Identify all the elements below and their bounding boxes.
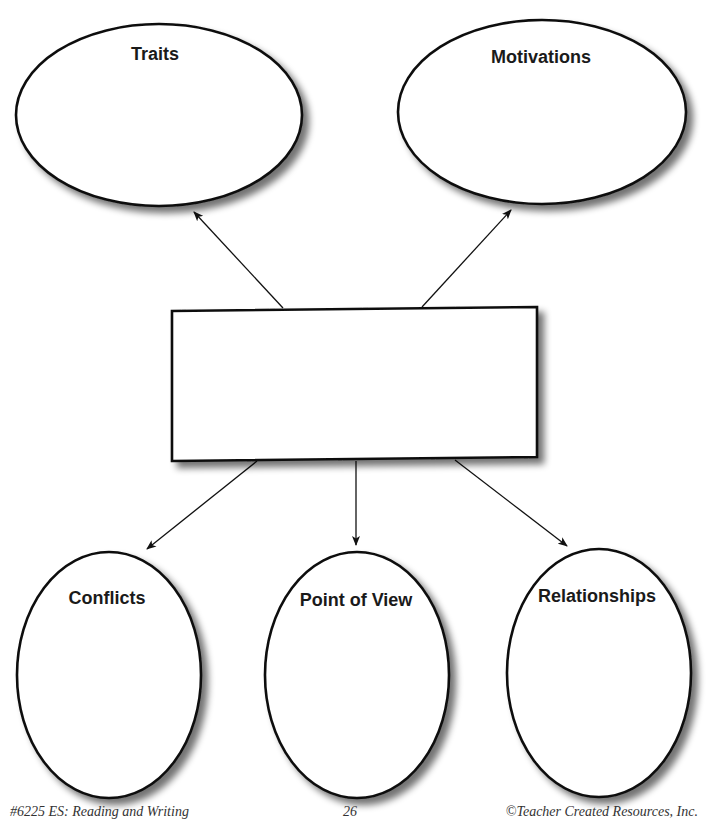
relationships-label: Relationships bbox=[538, 587, 656, 605]
footer-page-number: 26 bbox=[343, 805, 357, 819]
point-of-view-ellipse[interactable] bbox=[265, 552, 449, 798]
footer-book-title: #6225 ES: Reading and Writing bbox=[10, 805, 189, 819]
conflicts-label: Conflicts bbox=[68, 589, 145, 607]
footer-copyright: ©Teacher Created Resources, Inc. bbox=[506, 805, 698, 819]
motivations-label: Motivations bbox=[491, 48, 591, 66]
arrow-to-relationships bbox=[455, 460, 567, 546]
traits-label: Traits bbox=[131, 45, 179, 63]
arrow-to-conflicts bbox=[147, 461, 257, 549]
center-box-label bbox=[172, 311, 537, 461]
arrow-to-motivations bbox=[422, 210, 511, 307]
arrow-to-traits bbox=[194, 212, 283, 308]
point-of-view-label: Point of View bbox=[300, 591, 413, 609]
